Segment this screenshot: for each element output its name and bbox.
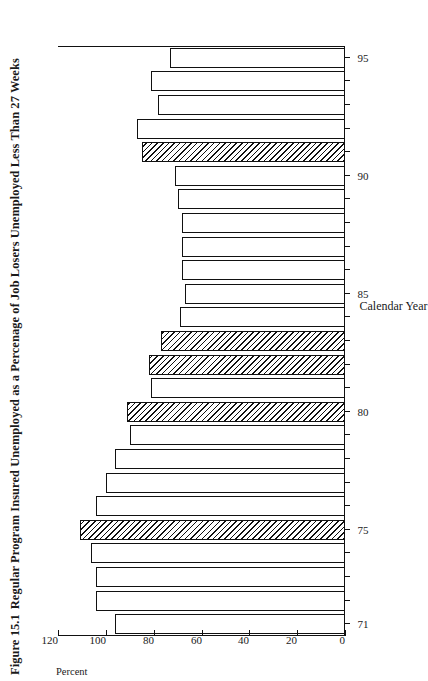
category-tick-90: [345, 175, 350, 176]
bar-87: [182, 237, 345, 257]
bar-91: [142, 142, 345, 162]
category-tick-80: [345, 411, 350, 412]
category-label-95: 95: [358, 52, 369, 64]
bar-89: [178, 190, 345, 210]
chart-plot-area: Percent Calendar Year 717580859095120100…: [58, 46, 345, 636]
bar-75: [80, 520, 345, 540]
bar-90: [175, 166, 345, 186]
bar-74: [91, 544, 345, 564]
category-axis-title: Calendar Year: [360, 298, 428, 313]
category-tick-91: [345, 151, 350, 152]
category-tick-83: [345, 340, 350, 341]
figure-title: Figure 15.1Regular Program Insured Unemp…: [8, 7, 23, 675]
category-tick-84: [345, 316, 350, 317]
bar-79: [130, 426, 345, 446]
category-tick-82: [345, 364, 350, 365]
category-label-85: 85: [358, 288, 369, 300]
bar-73: [96, 567, 345, 587]
bar-78: [115, 449, 345, 469]
bar-92: [137, 119, 345, 139]
category-tick-92: [345, 128, 350, 129]
category-tick-95: [345, 57, 350, 58]
category-label-90: 90: [358, 170, 369, 182]
figure-title-text: Regular Program Insured Unemployed as a …: [8, 58, 22, 609]
category-tick-79: [345, 434, 350, 435]
value-label-80: 80: [143, 634, 154, 646]
category-tick-72: [345, 600, 350, 601]
value-tick-40: [249, 630, 250, 636]
bar-88: [182, 213, 345, 233]
value-tick-20: [297, 630, 298, 636]
bar-86: [182, 260, 345, 280]
category-tick-81: [345, 387, 350, 388]
category-tick-89: [345, 198, 350, 199]
value-axis-title: Percent: [56, 666, 88, 677]
value-label-100: 100: [89, 634, 106, 646]
bar-71: [115, 614, 345, 634]
category-tick-88: [345, 222, 350, 223]
bar-77: [106, 473, 345, 493]
category-tick-76: [345, 505, 350, 506]
bar-72: [96, 591, 345, 611]
category-tick-93: [345, 104, 350, 105]
category-tick-77: [345, 482, 350, 483]
category-tick-94: [345, 80, 350, 81]
bar-76: [96, 496, 345, 516]
bar-84: [180, 308, 345, 328]
category-tick-74: [345, 552, 350, 553]
figure-number: Figure 15.1: [8, 614, 22, 675]
category-label-71: 71: [358, 618, 369, 630]
bar-80: [127, 402, 345, 422]
value-label-0: 0: [340, 634, 346, 646]
category-tick-85: [345, 293, 350, 294]
value-label-20: 20: [286, 634, 297, 646]
value-label-60: 60: [191, 634, 202, 646]
bar-83: [161, 331, 345, 351]
value-label-40: 40: [238, 634, 249, 646]
category-tick-78: [345, 458, 350, 459]
category-tick-87: [345, 246, 350, 247]
category-tick-75: [345, 529, 350, 530]
bar-82: [149, 355, 345, 375]
bar-85: [185, 284, 345, 304]
category-label-75: 75: [358, 524, 369, 536]
bar-81: [151, 378, 345, 398]
category-label-80: 80: [358, 406, 369, 418]
bar-93: [158, 95, 345, 115]
category-tick-71: [345, 623, 350, 624]
category-tick-86: [345, 269, 350, 270]
category-tick-73: [345, 576, 350, 577]
value-label-120: 120: [42, 634, 59, 646]
bar-95: [170, 48, 345, 68]
bar-series: [58, 46, 345, 636]
bar-94: [151, 72, 345, 92]
